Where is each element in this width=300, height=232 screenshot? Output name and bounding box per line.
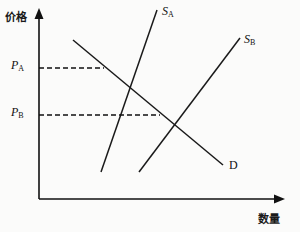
x-axis-arrowhead [274, 195, 285, 204]
supply-curve-a-label-subscript: A [168, 10, 174, 19]
y-axis-label: 价格 [5, 8, 27, 24]
supply-curve-b [139, 38, 240, 172]
price-level-a-subscript: A [18, 64, 24, 73]
demand-curve [73, 40, 223, 165]
price-level-b-subscript: B [18, 111, 23, 120]
demand-curve-label: D [229, 158, 238, 173]
supply-curve-a [101, 10, 157, 172]
supply-curve-b-label: SB [244, 32, 255, 47]
supply-demand-chart: 价格 数量 SA SB D PA PB [0, 0, 300, 232]
x-axis-label: 数量 [258, 210, 280, 226]
supply-curve-b-label-subscript: B [250, 38, 255, 47]
y-axis-arrowhead [35, 8, 44, 19]
price-level-b-label: PB [11, 105, 24, 120]
supply-curve-a-label: SA [162, 4, 174, 19]
price-level-a-label: PA [11, 58, 24, 73]
